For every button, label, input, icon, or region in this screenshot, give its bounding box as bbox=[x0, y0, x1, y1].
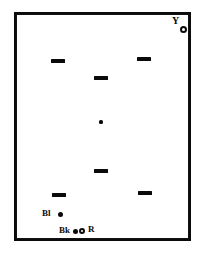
marker-diagram-figure: Y Bl Bk R bbox=[0, 0, 202, 257]
dash-marker-upper-left bbox=[51, 59, 65, 63]
black-filled-circle-marker bbox=[73, 229, 78, 234]
label-blue: Bl bbox=[42, 209, 51, 218]
red-open-circle-marker bbox=[79, 228, 85, 234]
label-yellow: Y bbox=[172, 16, 179, 25]
plot-frame-inner bbox=[16, 14, 189, 239]
dash-marker-upper-right bbox=[137, 57, 151, 61]
dash-marker-lower-left bbox=[52, 193, 66, 197]
blue-filled-circle-marker bbox=[58, 212, 63, 217]
dash-marker-mid-upper bbox=[94, 76, 108, 80]
label-black: Bk bbox=[59, 226, 70, 235]
dash-marker-lower-right bbox=[138, 191, 152, 195]
dash-marker-mid-lower bbox=[94, 169, 108, 173]
center-dot-marker bbox=[99, 120, 103, 124]
yellow-open-circle-marker bbox=[180, 26, 187, 33]
label-red: R bbox=[88, 225, 95, 234]
